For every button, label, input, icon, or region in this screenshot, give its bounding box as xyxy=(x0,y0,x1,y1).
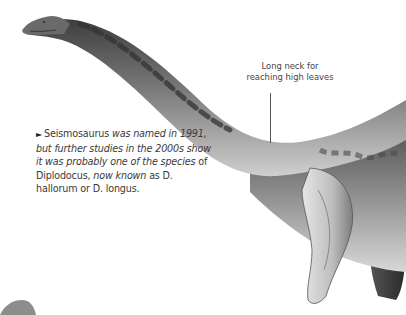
callout-label: Long neck for reaching high leaves xyxy=(243,61,337,82)
pointer-arrow-icon: ► xyxy=(36,130,42,139)
callout-leader-line xyxy=(270,93,271,143)
eye xyxy=(43,21,45,23)
partial-graphic xyxy=(0,300,36,315)
page: Long neck for reaching high leaves ►Seis… xyxy=(0,0,406,315)
caption: ►Seismosaurus was named in 1991, but fur… xyxy=(36,127,216,196)
caption-text-4: now known xyxy=(93,170,149,181)
head xyxy=(22,16,70,35)
caption-text-1: Seismosaurus xyxy=(44,128,112,139)
